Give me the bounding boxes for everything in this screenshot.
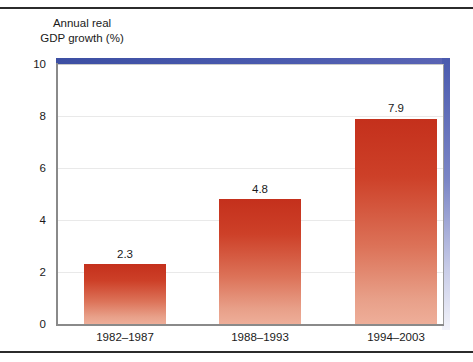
y-tick-label-8: 8 <box>0 110 46 122</box>
x-axis-line <box>56 324 444 326</box>
top-rule <box>0 7 473 9</box>
y-tick-label-4: 4 <box>0 214 46 226</box>
y-axis-tick-labels: 10 8 6 4 2 0 <box>0 0 52 362</box>
bar-1982-1987[interactable] <box>84 264 166 324</box>
gridline-8 <box>56 116 444 117</box>
x-tick-label-1994-2003: 1994–2003 <box>341 331 451 343</box>
bar-value-1994-2003: 7.9 <box>355 102 437 114</box>
x-tick-label-1988-1993: 1988–1993 <box>205 331 315 343</box>
bottom-rule <box>0 351 473 353</box>
bar-value-1988-1993: 4.8 <box>219 183 301 195</box>
x-tick-label-1982-1987: 1982–1987 <box>70 331 180 343</box>
y-tick-label-6: 6 <box>0 162 46 174</box>
y-tick-label-10: 10 <box>0 58 46 70</box>
y-tick-label-0: 0 <box>0 318 46 330</box>
y-tick-label-2: 2 <box>0 266 46 278</box>
bar-1994-2003[interactable] <box>355 119 437 324</box>
bar-value-1982-1987: 2.3 <box>84 248 166 260</box>
y-axis-line <box>56 63 58 325</box>
bar-1988-1993[interactable] <box>219 199 301 324</box>
